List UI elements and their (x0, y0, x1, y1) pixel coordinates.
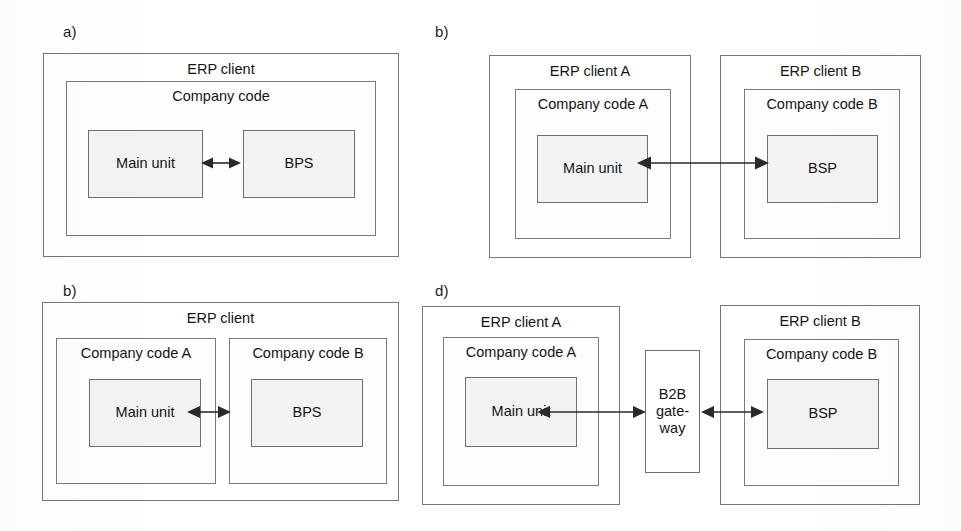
panel-b-top-main-unit-box: Main unit (537, 135, 648, 203)
erp-bps-scenarios-figure: a) ERP client Company code Main unit BPS… (0, 0, 961, 531)
panel-b-top-bsp-label: BSP (768, 136, 877, 202)
panel-d-label: d) (435, 283, 449, 298)
panel-a-erp-client-box: ERP client Company code Main unit BPS (43, 53, 399, 257)
panel-b-top-erp-client-b-title: ERP client B (721, 63, 920, 80)
panel-b-top-erp-client-b-box: ERP client B Company code B BSP (720, 55, 921, 258)
panel-a-main-unit-label: Main unit (89, 131, 202, 197)
panel-a-company-code-box: Company code Main unit BPS (66, 81, 376, 236)
panel-d-company-code-b-title: Company code B (745, 346, 898, 363)
panel-d-erp-client-b-title: ERP client B (721, 313, 919, 330)
panel-b-bottom-main-unit-label: Main unit (90, 380, 200, 446)
panel-d-b2b-gateway-box: B2B gate- way (645, 350, 700, 473)
panel-a-company-code-title: Company code (67, 88, 375, 105)
panel-a-main-unit-box: Main unit (88, 130, 203, 198)
panel-a-bps-box: BPS (243, 130, 355, 198)
panel-b-bottom-company-code-b-title: Company code B (230, 345, 386, 362)
panel-b-bottom-company-code-a-box: Company code A Main unit (56, 338, 216, 484)
panel-b-bottom-erp-client-box: ERP client Company code A Main unit Comp… (42, 302, 399, 501)
panel-b-bottom-company-code-a-title: Company code A (57, 345, 215, 362)
panel-b-top-erp-client-a-box: ERP client A Company code A Main unit (489, 55, 691, 258)
panel-b-top-company-code-b-title: Company code B (745, 96, 899, 113)
panel-b-bottom-company-code-b-box: Company code B BPS (229, 338, 387, 484)
panel-d-company-code-a-title: Company code A (444, 344, 598, 361)
panel-b-bottom-bps-box: BPS (251, 379, 363, 447)
panel-d-b2b-gateway-label: B2B gate- way (646, 351, 699, 472)
panel-b-top-erp-client-a-title: ERP client A (490, 63, 690, 80)
panel-b-top-main-unit-label: Main unit (538, 136, 647, 202)
panel-b-bottom-main-unit-box: Main unit (89, 379, 201, 447)
panel-b-top-label: b) (435, 24, 449, 39)
panel-b-bottom-erp-client-title: ERP client (43, 310, 398, 327)
panel-d-company-code-a-box: Company code A Main unit (443, 337, 599, 486)
panel-b-bottom-bps-label: BPS (252, 380, 362, 446)
panel-b-bottom-label: b) (63, 283, 77, 298)
panel-b-top-company-code-b-box: Company code B BSP (744, 89, 900, 239)
panel-a-bps-label: BPS (244, 131, 354, 197)
panel-b-top-company-code-a-title: Company code A (516, 96, 670, 113)
panel-d-company-code-b-box: Company code B BSP (744, 339, 899, 486)
panel-d-main-unit-box: Main unit (465, 377, 577, 447)
panel-d-bsp-box: BSP (767, 379, 879, 449)
panel-a-label: a) (63, 24, 77, 39)
panel-b-top-bsp-box: BSP (767, 135, 878, 203)
panel-d-erp-client-a-box: ERP client A Company code A Main unit (422, 306, 620, 505)
panel-d-erp-client-a-title: ERP client A (423, 314, 619, 331)
panel-d-bsp-label: BSP (768, 380, 878, 448)
panel-d-erp-client-b-box: ERP client B Company code B BSP (720, 305, 920, 505)
panel-b-top-company-code-a-box: Company code A Main unit (515, 89, 671, 239)
panel-d-main-unit-label: Main unit (466, 378, 576, 446)
panel-a-erp-client-title: ERP client (44, 61, 398, 78)
